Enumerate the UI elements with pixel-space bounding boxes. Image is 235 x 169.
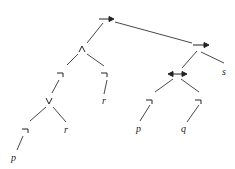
not-node-5: [22, 129, 28, 133]
implies-node: [193, 43, 209, 48]
not-node-1: [57, 73, 63, 77]
leaf-p-1: p: [136, 124, 141, 134]
leaf-r-1: r: [102, 96, 106, 106]
leaf-r-2: r: [64, 125, 68, 135]
root-implies-node: [99, 17, 114, 22]
not-node-3: [146, 100, 152, 104]
leaf-s: s: [222, 67, 226, 77]
iff-node: [168, 72, 187, 77]
tree-edges: [0, 0, 235, 169]
not-node-2: [101, 73, 107, 77]
leaf-p-2: p: [11, 153, 16, 163]
leaf-q: q: [181, 124, 186, 134]
not-node-4: [195, 100, 201, 104]
or-node: [46, 98, 52, 104]
and-node: [79, 46, 85, 52]
